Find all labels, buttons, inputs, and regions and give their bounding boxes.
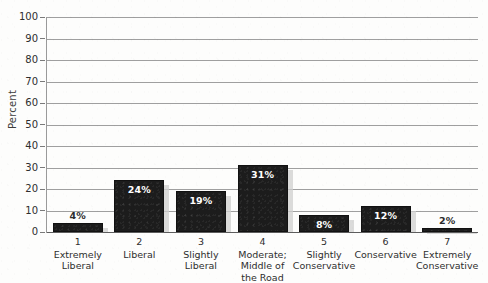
x-category-number: 2 [105,236,175,248]
x-category-name-line: Liberal [43,260,113,272]
x-category-3: 3SlightlyLiberal [166,236,236,272]
gridline-100 [47,17,478,18]
x-category-number: 1 [43,236,113,248]
y-tick-mark [40,60,45,61]
y-tick-label-40: 40 [6,140,38,151]
gridline-80 [47,60,478,61]
x-category-2: 2Liberal [105,236,175,260]
bar-value-label: 4% [53,210,103,221]
plot-area: 4%24%19%31%8%12%2% [47,17,478,232]
bar-value-label: 19% [176,195,226,206]
x-category-6: 6Conservative [351,236,421,260]
y-tick-label-50: 50 [6,119,38,130]
y-tick-mark [40,146,45,147]
y-tick-label-90: 90 [6,33,38,44]
x-category-name-line: Extremely [43,249,113,261]
y-tick-label-30: 30 [6,162,38,173]
gridline-90 [47,39,478,40]
y-tick-label-10: 10 [6,205,38,216]
x-category-name-line: Slightly [289,249,359,261]
y-tick-mark [40,189,45,190]
bar-value-label: 2% [422,215,472,226]
y-tick-label-0: 0 [6,226,38,237]
y-tick-mark [40,17,45,18]
x-category-number: 3 [166,236,236,248]
x-category-name-line: Moderate; [228,249,298,261]
x-category-number: 7 [412,236,482,248]
x-category-name-line: Liberal [166,260,236,272]
y-tick-mark [40,124,45,125]
y-tick-mark [40,81,45,82]
bar-value-label: 24% [114,184,164,195]
x-category-number: 5 [289,236,359,248]
x-category-number: 6 [351,236,421,248]
x-category-4: 4Moderate;Middle ofthe Road [228,236,298,283]
gridline-60 [47,103,478,104]
x-category-name-line: Slightly [166,249,236,261]
gridline-50 [47,125,478,126]
y-tick-label-80: 80 [6,54,38,65]
bar-value-label: 8% [299,219,349,230]
x-category-1: 1ExtremelyLiberal [43,236,113,272]
y-tick-mark [40,167,45,168]
x-category-name-line: Liberal [105,249,175,261]
y-tick-mark [40,210,45,211]
gridline-40 [47,146,478,147]
y-tick-mark [40,232,45,233]
x-category-7: 7ExtremelyConservative [412,236,482,272]
x-category-number: 4 [228,236,298,248]
bar-value-label: 12% [361,210,411,221]
gridline-70 [47,82,478,83]
x-category-name-line: Conservative [412,260,482,272]
bar-shadow [427,233,477,234]
y-tick-label-100: 100 [6,11,38,22]
bar[interactable] [422,228,472,232]
y-tick-mark [40,38,45,39]
x-category-name-line: the Road [228,272,298,283]
x-category-name-line: Conservative [351,249,421,261]
x-category-5: 5SlightlyConservative [289,236,359,272]
x-category-name-line: Middle of [228,260,298,272]
y-tick-mark [40,103,45,104]
x-category-name-line: Extremely [412,249,482,261]
y-tick-label-60: 60 [6,97,38,108]
bar-value-label: 31% [238,169,288,180]
y-axis-title: Percent [7,80,18,140]
bar[interactable] [53,223,103,232]
y-tick-label-20: 20 [6,183,38,194]
y-tick-label-70: 70 [6,76,38,87]
x-category-name-line: Conservative [289,260,359,272]
gridline-0 [47,232,478,233]
